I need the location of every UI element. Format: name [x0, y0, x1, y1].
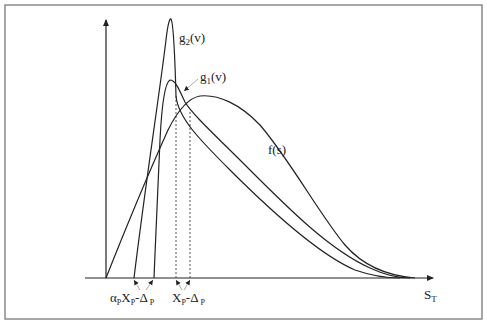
curve-g1	[154, 80, 410, 278]
tick-label-left: αPXP-Δ P	[110, 290, 155, 307]
curve-f	[106, 96, 415, 278]
label-f: f(s)	[268, 142, 286, 157]
label-g1: g1(v)	[200, 69, 226, 86]
tick-label-right: XP-Δ P	[172, 290, 206, 307]
pointer-g1	[184, 79, 198, 91]
curve-g2	[134, 19, 400, 278]
distribution-diagram: g2(v) g1(v) f(s) ST αPXP-Δ P XP-Δ P	[0, 0, 487, 324]
pointer-left-delta	[146, 280, 153, 290]
frame-border	[5, 5, 482, 319]
pointer-alpha	[134, 280, 140, 290]
label-g2: g2(v)	[179, 30, 205, 47]
pointer-xp	[176, 280, 182, 290]
label-x-axis: ST	[424, 287, 437, 304]
pointer-xp-delta	[184, 280, 190, 290]
